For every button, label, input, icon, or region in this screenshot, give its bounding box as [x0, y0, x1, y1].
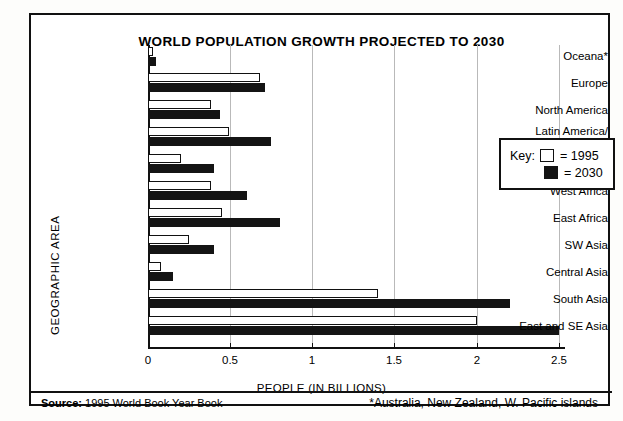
footnote: *Australia, New Zealand, W. Pacific isla…: [369, 396, 598, 410]
footer-divider: [31, 391, 612, 393]
bar-1995-north-africa: [148, 154, 181, 163]
legend-key-label: Key:: [510, 149, 535, 163]
bar-2030-latin-america: [148, 137, 271, 146]
category-label-sw-asia: SW Asia: [496, 239, 608, 251]
category-label-east-se-asia: East and SE Asia: [496, 320, 608, 332]
bar-1995-west-africa: [148, 181, 211, 190]
category-label-east-africa: East Africa: [496, 212, 608, 224]
xtick-label-1: 1: [292, 354, 332, 366]
legend-equals-1995: =: [560, 149, 567, 163]
xtick-0.5: [230, 343, 231, 349]
legend-swatch-1995-icon: [540, 149, 554, 162]
bar-1995-europe: [148, 73, 260, 82]
xtick-label-2.5: 2.5: [539, 354, 579, 366]
source-line: Source: 1995 World Book Year Book: [41, 397, 222, 409]
legend-equals-2030: =: [564, 166, 571, 180]
xtick-label-2: 2: [457, 354, 497, 366]
bar-2030-north-africa: [148, 164, 214, 173]
source-text: 1995 World Book Year Book: [85, 397, 222, 409]
bar-2030-europe: [148, 83, 265, 92]
bar-2030-west-africa: [148, 191, 247, 200]
bar-1995-sw-asia: [148, 235, 189, 244]
y-axis-title: GEOGRAPHIC AREA: [49, 216, 61, 335]
bar-2030-north-america: [148, 110, 220, 119]
legend-label-2030: 2030: [575, 166, 603, 180]
bar-1995-east-se-asia: [148, 316, 477, 325]
bar-2030-central-asia: [148, 272, 173, 281]
bar-1995-oceana: [148, 47, 153, 56]
xtick-1.5: [394, 343, 395, 349]
category-label-south-asia: South Asia: [496, 293, 608, 305]
bar-2030-south-asia: [148, 299, 510, 308]
xtick-label-1.5: 1.5: [374, 354, 414, 366]
xtick-1: [312, 343, 313, 349]
legend-row-1995: Key: = 1995: [510, 147, 603, 164]
category-label-central-asia: Central Asia: [496, 266, 608, 278]
bar-1995-latin-america: [148, 127, 229, 136]
legend-row-2030: = 2030: [510, 164, 603, 181]
figure-frame: WORLD POPULATION GROWTH PROJECTED TO 203…: [29, 13, 610, 406]
bar-2030-oceana: [148, 57, 156, 66]
bar-1995-central-asia: [148, 262, 161, 271]
bar-2030-sw-asia: [148, 245, 214, 254]
bar-1995-east-africa: [148, 208, 222, 217]
x-axis-line: [148, 347, 565, 349]
category-label-latin-america-line1: Latin America/: [535, 125, 608, 137]
chart-page: WORLD POPULATION GROWTH PROJECTED TO 203…: [0, 0, 623, 421]
legend: Key: = 1995 = 2030: [499, 138, 615, 190]
legend-label-1995: 1995: [571, 149, 599, 163]
xtick-2: [477, 343, 478, 349]
xtick-label-0.5: 0.5: [210, 354, 250, 366]
category-label-europe: Europe: [496, 77, 608, 89]
xtick-0: [148, 343, 149, 349]
bar-1995-north-america: [148, 100, 211, 109]
bar-1995-south-asia: [148, 289, 378, 298]
category-label-oceana: Oceana*: [496, 50, 608, 62]
xtick-label-0: 0: [128, 354, 168, 366]
source-label: Source:: [41, 397, 82, 409]
category-label-north-america: North America: [496, 104, 608, 116]
xtick-2.5: [559, 343, 560, 349]
bar-2030-east-africa: [148, 218, 280, 227]
legend-swatch-2030-icon: [544, 166, 558, 179]
